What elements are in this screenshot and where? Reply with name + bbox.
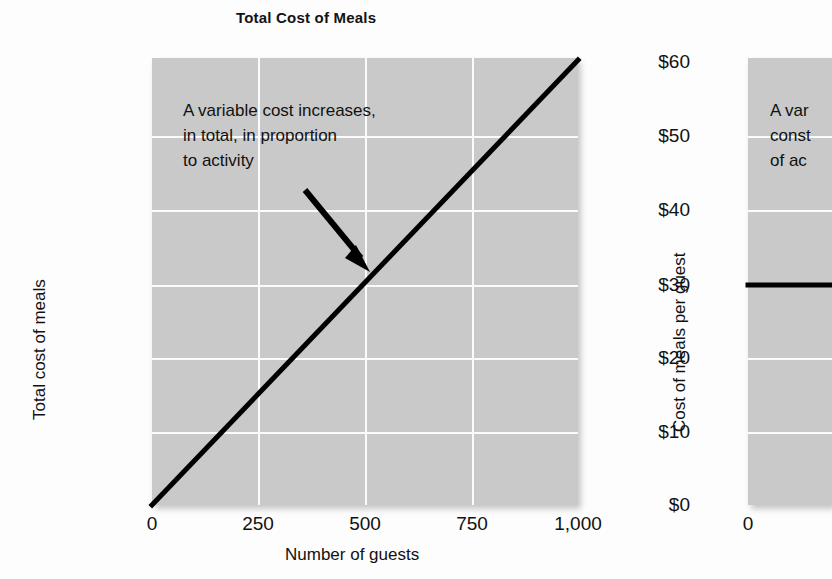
y-axis-tick-label: $50 [658, 125, 690, 147]
y-axis-title: Total cost of meals [30, 279, 50, 420]
gridline-horizontal [748, 358, 832, 360]
annotation-line-2: const [770, 123, 811, 148]
page-title: Total Cost of Meals [236, 9, 376, 26]
x-axis-tick-label: 0 [743, 513, 754, 535]
x-axis-tick-label: 1,000 [554, 513, 602, 535]
y-axis-tick-label: $40 [658, 199, 690, 221]
x-axis-tick-label: 750 [456, 513, 488, 535]
chart-cost-per-guest: $60 $50 $40 $30 $20 $10 $0 0 Cost of mea… [620, 0, 832, 579]
gridline-horizontal [748, 210, 832, 212]
y-axis-title: Cost of meals per guest [670, 252, 690, 432]
chart-total-cost-of-meals: Total Cost of Meals $30,000 $25,000 $20,… [0, 0, 620, 579]
x-axis-tick-label: 500 [349, 513, 381, 535]
x-axis-title: Number of guests [285, 545, 419, 565]
gridline-vertical [472, 58, 474, 505]
x-axis-tick-label: 250 [242, 513, 274, 535]
annotation-variable-cost-total: A variable cost increases, in total, in … [183, 98, 376, 173]
x-axis-tick-label: 0 [147, 513, 158, 535]
y-axis-tick-label: $0 [669, 494, 690, 516]
annotation-line-3: to activity [183, 148, 376, 173]
annotation-line-1: A variable cost increases, [183, 98, 376, 123]
annotation-variable-cost-per-unit: A var const of ac [770, 98, 811, 173]
gridline-horizontal [748, 432, 832, 434]
annotation-line-1: A var [770, 98, 811, 123]
gridline-horizontal [748, 285, 832, 287]
annotation-line-3: of ac [770, 148, 811, 173]
y-axis-tick-label: $60 [658, 51, 690, 73]
annotation-line-2: in total, in proportion [183, 123, 376, 148]
